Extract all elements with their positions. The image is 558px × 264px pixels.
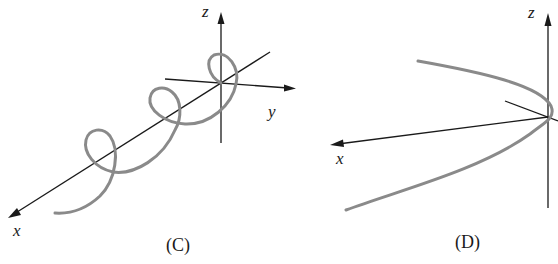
panel-d-graphic <box>330 13 558 210</box>
panel-d-z-arrow-icon <box>545 13 552 26</box>
panel-d-x-axis <box>338 117 548 144</box>
panel-c-x-label: x <box>13 222 21 239</box>
figure-canvas <box>0 0 558 264</box>
panel-c-y-arrow-icon <box>284 85 296 92</box>
panel-c-z-label: z <box>202 3 209 20</box>
panel-d-x-label: x <box>336 150 344 167</box>
panel-d-x-arrow-icon <box>330 140 344 148</box>
panel-c-x-arrow-icon <box>8 208 21 218</box>
panel-d-caption: (D) <box>455 233 480 251</box>
figure: z y x (C) z x (D) <box>0 0 558 264</box>
panel-c-y-label: y <box>268 103 276 120</box>
panel-d-parabola-curve <box>346 61 552 210</box>
panel-d-z-label: z <box>528 4 535 21</box>
panel-c-y-axis <box>165 79 288 88</box>
panel-c-x-axis <box>14 52 270 214</box>
panel-c-caption: (C) <box>166 236 190 254</box>
panel-c-helix-curve <box>55 54 237 213</box>
panel-c-graphic <box>8 12 296 218</box>
panel-c-z-arrow-icon <box>218 12 225 24</box>
